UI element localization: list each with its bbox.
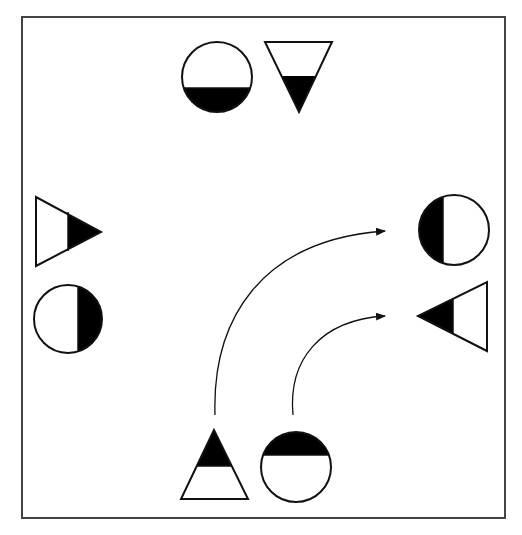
bottom-triangle-shape — [176, 424, 256, 499]
arrow-circle-to-right-triangle — [292, 316, 385, 415]
arrow-triangle-to-right-circle — [215, 231, 385, 415]
bottom-circle-shape — [259, 430, 334, 502]
diagram-svg — [0, 0, 522, 535]
diagram-canvas — [0, 0, 522, 535]
diagram-frame — [22, 17, 505, 518]
right-triangle-shape — [412, 278, 487, 358]
top-circle-shape — [180, 42, 255, 118]
top-triangle-shape — [260, 42, 340, 116]
right-circle-shape — [415, 194, 489, 266]
left-circle-shape — [34, 284, 108, 356]
left-triangle-shape — [36, 192, 108, 272]
